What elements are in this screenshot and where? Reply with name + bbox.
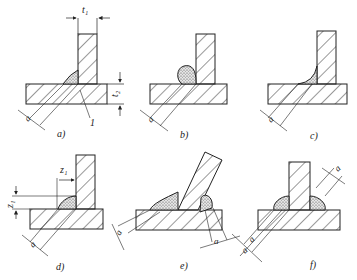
- panel-f: a a a f): [232, 162, 345, 271]
- dim-a-left: a: [113, 228, 124, 237]
- panel-a: t₁ t₂ a 1 a): [18, 4, 124, 140]
- vertical-plate: [78, 34, 97, 84]
- panel-c: a c): [260, 31, 347, 142]
- weld-bead-right: [200, 195, 212, 212]
- weld-bead: [63, 70, 78, 84]
- weld-bead-right: [310, 196, 325, 210]
- dim-z1-vertical: z₁: [4, 201, 15, 209]
- caption-c: c): [310, 130, 318, 142]
- weld-bead-left: [274, 196, 289, 210]
- dim-a: a: [145, 114, 156, 125]
- caption-b: b): [180, 129, 189, 141]
- dim-t1: t₁: [82, 4, 88, 15]
- caption-f: f): [310, 259, 317, 271]
- caption-d: d): [56, 261, 65, 273]
- dim-t2: t₂: [109, 90, 120, 97]
- panel-b: a b): [140, 34, 227, 141]
- weld-bead: [178, 66, 196, 84]
- weld-diagram: t₁ t₂ a 1 a) a b) a c): [0, 0, 357, 280]
- panel-d: z₁ z₁ a d): [4, 155, 103, 273]
- panel-e: a a e): [112, 152, 240, 272]
- weld-bead-left: [150, 192, 178, 210]
- dim-a: a: [22, 113, 33, 124]
- weld-bead: [58, 196, 76, 209]
- dim-z1-horizontal: z₁: [59, 164, 67, 175]
- base-plate: [26, 84, 107, 104]
- inclined-plate: [178, 152, 222, 210]
- callout-1: 1: [90, 117, 95, 128]
- dim-a-right: a: [332, 163, 343, 174]
- caption-a: a): [57, 128, 66, 140]
- dim-a-right: a: [214, 236, 219, 246]
- weld-bead: [298, 66, 317, 84]
- caption-e: e): [180, 260, 188, 272]
- dim-a-outer: a: [239, 245, 250, 256]
- dim-a: a: [27, 239, 38, 250]
